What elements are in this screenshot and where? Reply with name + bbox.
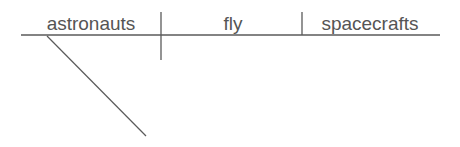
modifier-diagonal: [47, 36, 146, 136]
verb-word: fly: [224, 14, 243, 33]
subject-word: astronauts: [47, 14, 136, 33]
sentence-diagram: astronauts fly spacecrafts: [0, 0, 460, 147]
object-word: spacecrafts: [321, 14, 418, 33]
